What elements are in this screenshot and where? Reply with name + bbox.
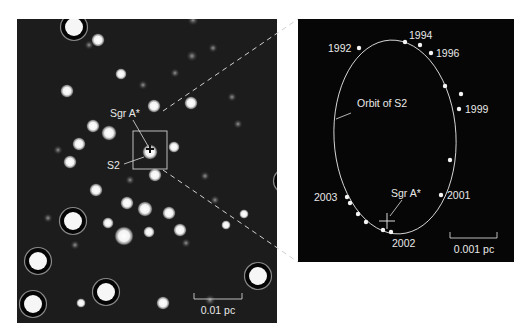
orbit-observation-point bbox=[364, 220, 368, 224]
star bbox=[239, 209, 249, 219]
orbit-observation-point bbox=[459, 92, 463, 96]
star bbox=[181, 238, 191, 248]
orbit-observation-point bbox=[381, 228, 385, 232]
star bbox=[53, 145, 63, 155]
orbit-diagram-background bbox=[298, 19, 514, 262]
year-label-2002: 2002 bbox=[392, 237, 416, 249]
year-label-2003: 2003 bbox=[314, 191, 338, 203]
year-label-2001: 2001 bbox=[447, 189, 471, 201]
orbit-scale-bar-label: 0.001 pc bbox=[454, 243, 494, 255]
star bbox=[76, 298, 86, 308]
star bbox=[148, 168, 162, 182]
star bbox=[162, 206, 176, 220]
star bbox=[137, 201, 153, 217]
star bbox=[84, 40, 94, 50]
s2-label: S2 bbox=[107, 159, 120, 171]
star bbox=[170, 68, 180, 78]
star bbox=[156, 296, 170, 310]
star bbox=[184, 96, 198, 110]
year-label-1994: 1994 bbox=[409, 29, 433, 41]
star bbox=[43, 213, 53, 223]
star bbox=[187, 14, 199, 26]
star bbox=[89, 183, 103, 197]
star bbox=[24, 295, 42, 313]
star bbox=[63, 155, 77, 169]
star bbox=[227, 92, 237, 102]
star bbox=[173, 223, 187, 237]
star bbox=[221, 220, 231, 230]
star bbox=[101, 125, 117, 141]
star bbox=[138, 80, 148, 90]
orbit-observation-point bbox=[389, 230, 393, 234]
star bbox=[168, 141, 180, 153]
star bbox=[97, 283, 115, 301]
orbit-observation-point bbox=[345, 195, 349, 199]
year-label-1992: 1992 bbox=[328, 42, 352, 54]
star bbox=[102, 217, 114, 229]
star bbox=[249, 267, 267, 285]
star bbox=[143, 226, 155, 238]
orbit-observation-point bbox=[356, 212, 360, 216]
star bbox=[115, 68, 127, 80]
orbit-diagram: 1992199419961999200120022003 Orbit of S2… bbox=[298, 19, 514, 262]
star bbox=[120, 196, 134, 210]
star-halo bbox=[274, 169, 299, 194]
star bbox=[125, 175, 135, 185]
star bbox=[60, 84, 74, 98]
year-label-1999: 1999 bbox=[465, 103, 489, 115]
star bbox=[72, 137, 86, 151]
star bbox=[208, 43, 218, 53]
orbit-observation-point bbox=[457, 107, 461, 111]
star-field-background bbox=[17, 19, 277, 323]
star bbox=[200, 171, 210, 181]
star bbox=[70, 240, 80, 250]
orbit-observation-point bbox=[348, 201, 352, 205]
orbit-of-s2-label: Orbit of S2 bbox=[357, 97, 407, 109]
star bbox=[233, 119, 243, 129]
orbit-observation-point bbox=[403, 40, 407, 44]
star bbox=[278, 173, 294, 189]
orbit-sgr-a-label: Sgr A* bbox=[391, 187, 421, 199]
star bbox=[86, 119, 100, 133]
scale-bar-label: 0.01 pc bbox=[201, 304, 235, 316]
sgr-a-s2-orbit-figure: Sgr A* S2 0.01 pc 1992199419961999200120… bbox=[0, 0, 529, 327]
star bbox=[64, 212, 82, 230]
star bbox=[29, 252, 47, 270]
year-label-1996: 1996 bbox=[436, 47, 460, 59]
orbit-observation-point bbox=[443, 84, 447, 88]
orbit-observation-point bbox=[357, 46, 361, 50]
star bbox=[65, 18, 83, 36]
orbit-observation-point bbox=[439, 193, 443, 197]
star bbox=[186, 50, 198, 62]
sgr-a-label: Sgr A* bbox=[110, 107, 140, 119]
orbit-observation-point bbox=[429, 51, 433, 55]
star bbox=[114, 226, 134, 246]
star bbox=[147, 99, 161, 113]
orbit-observation-point bbox=[418, 43, 422, 47]
orbit-observation-point bbox=[448, 158, 452, 162]
star-field-image: Sgr A* S2 0.01 pc bbox=[17, 14, 299, 324]
